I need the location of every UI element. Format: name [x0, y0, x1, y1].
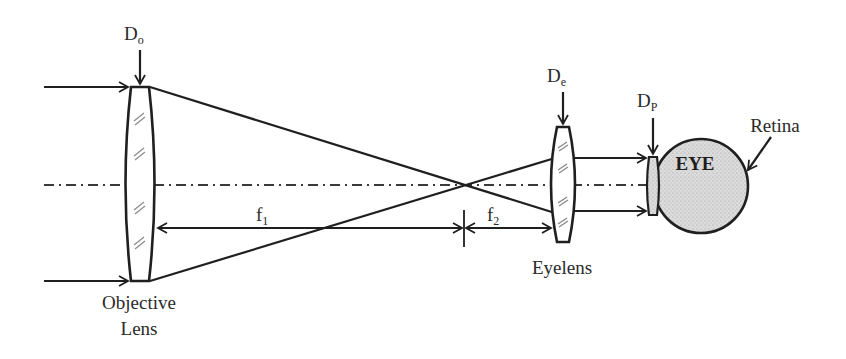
eye-label: EYE [675, 153, 714, 174]
eyelens [551, 127, 575, 242]
objective-lens-label-line2: Lens [121, 318, 158, 339]
objective-lens [126, 87, 155, 281]
pupil-lens [647, 157, 659, 215]
retina-label: Retina [750, 115, 800, 136]
telescope-optics-diagram: Do De DP f1 f2 Objective Lens Eyelens EY… [0, 0, 846, 359]
eyelens-aperture-label: De [547, 65, 566, 89]
retina-pointer-arrow [748, 137, 771, 170]
f1-label: f1 [256, 204, 268, 228]
pupil-aperture-label: DP [637, 90, 658, 114]
eyelens-label: Eyelens [532, 257, 592, 278]
objective-aperture-label: Do [124, 23, 144, 47]
ray-top-converging [150, 87, 555, 213]
f2-label: f2 [487, 204, 499, 228]
objective-lens-label-line1: Objective [102, 292, 176, 313]
